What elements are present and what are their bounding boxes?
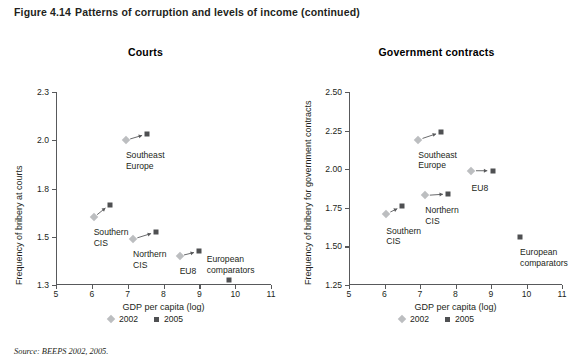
y-tick <box>345 246 349 247</box>
x-tick-label: 8 <box>453 289 458 299</box>
y-tick-label: 2.00 <box>325 164 342 174</box>
legend-government-contracts: 2002 2005 <box>291 314 582 324</box>
figure-number: Figure 4.14 <box>14 6 71 18</box>
legend-label-2002: 2002 <box>119 314 138 324</box>
y-tick-label: 1.50 <box>325 241 342 251</box>
data-point-2005 <box>490 168 495 173</box>
y-tick-label: 2.25 <box>325 126 342 136</box>
x-tick-label: 9 <box>197 289 202 299</box>
diamond-marker-icon <box>107 315 115 323</box>
data-point-label: Southern CIS <box>386 226 421 247</box>
chart-panel-government-contracts: Government contracts Frequency of briber… <box>291 42 582 337</box>
data-point-2005 <box>439 130 444 135</box>
x-axis-title-government-contracts: GDP per capita (log) <box>415 302 497 312</box>
data-point-2002 <box>382 210 390 218</box>
data-point-2005 <box>400 204 405 209</box>
x-tick-label: 10 <box>230 289 240 299</box>
data-point-label: EU8 <box>180 266 197 277</box>
y-tick <box>345 92 349 93</box>
legend-item-2002: 2002 <box>399 314 429 324</box>
y-tick-label: 2.50 <box>325 87 342 97</box>
data-point-2002 <box>467 166 475 174</box>
legend-label-2002: 2002 <box>410 314 429 324</box>
x-tick-label: 10 <box>522 289 532 299</box>
legend-courts: 2002 2005 <box>0 314 291 324</box>
x-tick-label: 5 <box>54 289 59 299</box>
legend-item-2002: 2002 <box>108 314 138 324</box>
plot-area-government-contracts: Frequency of bribery for government cont… <box>349 92 562 285</box>
figure-caption: Figure 4.14Patterns of corruption and le… <box>14 6 360 18</box>
data-point-2002 <box>89 213 97 221</box>
x-tick-label: 7 <box>418 289 423 299</box>
y-tick <box>52 237 56 238</box>
data-point-2005 <box>226 278 231 283</box>
y-tick <box>345 169 349 170</box>
x-tick-label: 8 <box>161 289 166 299</box>
data-point-label: Northern CIS <box>133 249 166 270</box>
y-tick-label: 1.5 <box>37 232 49 242</box>
x-tick-label: 11 <box>267 289 276 299</box>
y-tick-label: 2.3 <box>37 87 49 97</box>
figure-caption-text: Patterns of corruption and levels of inc… <box>75 6 360 18</box>
y-tick-label: 1.25 <box>325 280 342 290</box>
data-point-2005 <box>518 235 523 240</box>
y-axis-title-government-contracts: Frequency of bribery for government cont… <box>303 100 313 285</box>
data-point-label: Northern CIS <box>425 205 458 226</box>
data-point-2002 <box>421 191 429 199</box>
y-axis-title-courts: Frequency of bribery at courts <box>14 165 24 285</box>
data-point-label: EU8 <box>471 183 488 194</box>
diamond-marker-icon <box>398 315 406 323</box>
chart-panel-courts: Courts Frequency of bribery at courts GD… <box>0 42 291 337</box>
x-tick-label: 9 <box>489 289 494 299</box>
source-note: Source: BEEPS 2002, 2005. <box>14 347 108 356</box>
data-point-label: Southeast Europe <box>418 150 457 171</box>
data-point-2005 <box>154 229 159 234</box>
x-tick-label: 6 <box>89 289 94 299</box>
y-tick-label: 1.75 <box>325 203 342 213</box>
y-tick-label: 1.3 <box>37 280 49 290</box>
chart-title-courts: Courts <box>0 46 291 58</box>
data-point-2005 <box>446 191 451 196</box>
x-axis-title-courts: GDP per capita (log) <box>123 302 205 312</box>
x-tick-label: 5 <box>347 289 352 299</box>
legend-label-2005: 2005 <box>455 314 474 324</box>
data-point-2002 <box>129 235 137 243</box>
y-tick-label: 1.8 <box>37 184 49 194</box>
y-axis-line-government-contracts <box>349 92 350 285</box>
y-tick <box>52 189 56 190</box>
data-point-2002 <box>414 136 422 144</box>
data-point-2005 <box>197 249 202 254</box>
y-tick-label: 2.0 <box>37 135 49 145</box>
y-tick <box>345 131 349 132</box>
square-marker-icon <box>445 317 450 322</box>
data-point-2005 <box>145 131 150 136</box>
legend-item-2005: 2005 <box>154 314 183 324</box>
legend-item-2005: 2005 <box>445 314 474 324</box>
x-tick-label: 11 <box>558 289 567 299</box>
plot-area-courts: Frequency of bribery at courts GDP per c… <box>56 92 271 285</box>
square-marker-icon <box>154 317 159 322</box>
data-point-2002 <box>175 252 183 260</box>
y-tick <box>345 208 349 209</box>
x-tick-label: 7 <box>125 289 130 299</box>
x-tick-label: 6 <box>382 289 387 299</box>
data-point-label: European comparators <box>520 247 568 268</box>
data-point-label: European comparators <box>207 254 255 275</box>
data-point-label: Southern CIS <box>94 227 129 248</box>
legend-label-2005: 2005 <box>164 314 183 324</box>
data-point-label: Southeast Europe <box>126 150 165 171</box>
y-tick <box>52 92 56 93</box>
data-point-2005 <box>107 202 112 207</box>
y-axis-line-courts <box>56 92 57 285</box>
y-tick <box>52 140 56 141</box>
chart-title-government-contracts: Government contracts <box>291 46 582 58</box>
data-point-2002 <box>122 136 130 144</box>
